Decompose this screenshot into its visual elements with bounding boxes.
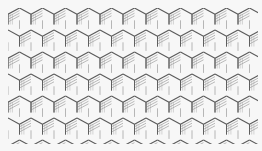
hexagonal-lattice-illustration bbox=[0, 0, 262, 151]
illustration-frame bbox=[0, 0, 262, 151]
